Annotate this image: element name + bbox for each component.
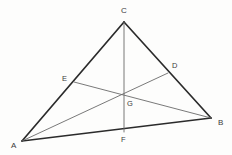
point-label-D: D <box>172 62 177 70</box>
point-label-G: G <box>127 100 133 108</box>
cevian-lines <box>22 22 211 141</box>
side-AC <box>22 22 124 141</box>
geometry-canvas <box>0 0 232 155</box>
cevian-BE <box>74 82 211 118</box>
point-label-F: F <box>121 136 126 144</box>
triangle-sides <box>22 22 211 141</box>
point-label-B: B <box>218 119 223 127</box>
point-label-E: E <box>62 75 67 83</box>
side-CB <box>124 22 211 118</box>
point-label-C: C <box>121 7 127 15</box>
geometry-figure: C A B D E F G <box>0 0 232 155</box>
point-label-A: A <box>11 142 16 150</box>
cevian-AD <box>22 73 168 141</box>
side-AB <box>22 118 211 141</box>
